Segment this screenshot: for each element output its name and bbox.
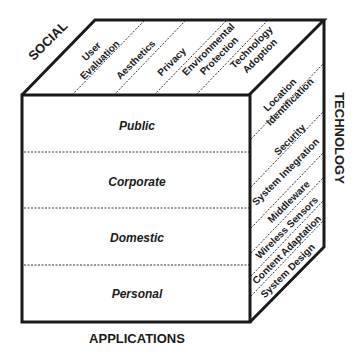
axis-label-applications: APPLICATIONS xyxy=(89,331,185,346)
row-label-personal: Personal xyxy=(112,287,163,301)
right-item-location-identification: Location Identification xyxy=(255,67,315,127)
axis-label-social: SOCIAL xyxy=(25,18,70,63)
top-item-aesthetics: Aesthetics xyxy=(114,38,158,82)
row-label-domestic: Domestic xyxy=(110,231,164,245)
row-label-corporate: Corporate xyxy=(108,175,166,189)
front-face-labels: Public Corporate Domestic Personal xyxy=(108,119,166,301)
svg-text:Aesthetics: Aesthetics xyxy=(114,38,158,82)
top-face-labels: User Evaluation Aesthetics Privacy Envir… xyxy=(70,21,284,87)
axis-label-technology: TECHNOLOGY xyxy=(332,92,347,184)
cube-diagram: Public Corporate Domestic Personal User … xyxy=(0,0,358,356)
row-label-public: Public xyxy=(119,119,155,133)
front-face-dividers xyxy=(24,152,249,265)
